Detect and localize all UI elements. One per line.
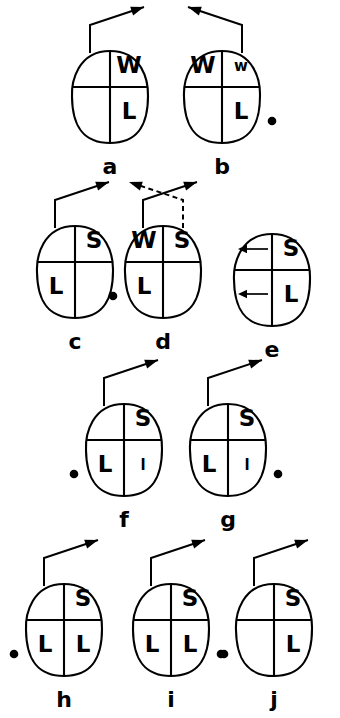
quadrant-label-upper-right: S [182,585,199,611]
quadrant-label-upper-right: S [285,585,302,611]
quadrant-label-lower-right: L [284,281,299,307]
quadrant-label-lower-left: L [202,451,217,477]
panel-caption-f: f [119,507,129,532]
panel-caption-j: j [269,687,278,712]
pointer-arrowhead [144,360,158,369]
panel-caption-e: e [265,337,280,362]
pointer-arrow [208,360,262,406]
panel-caption-i: i [167,687,175,712]
figure-canvas: WLaWwLbSLcWSLdSLeSLlfSLlgSLLhSLLiSLj a b… [0,0,340,718]
pointer-arrowhead [294,540,308,549]
quadrant-label-upper-left: W [190,52,215,78]
diagram-panel-f: SLlf [70,360,162,532]
pointer-arrowhead [84,540,98,549]
pointer-arrowhead [188,7,202,16]
diagram-panel-a: WLa [72,7,148,179]
panel-caption-g: g [220,507,236,532]
quadrant-label-lower-left: L [49,273,64,299]
quadrant-label-lower-right: L [286,631,301,657]
quadrant-label-upper-right: S [174,227,191,253]
diagram-panel-i: SLLi [133,540,225,712]
pointer-arrowhead [130,7,144,16]
diagram-panel-c: SLc [37,182,113,354]
panel-caption-b: b [214,154,230,179]
quadrant-label-lower-right: L [234,98,249,124]
diagram-panel-h: SLLh [10,540,102,712]
figure-svg: WLaWwLbSLcWSLdSLeSLlfSLlgSLLhSLLiSLj [0,0,340,718]
quadrant-label-lower-left: L [38,631,53,657]
pointer-arrowhead [129,182,143,191]
panel-caption-c: c [68,329,81,354]
pointer-arrow [188,7,242,53]
quadrant-label-lower-left: L [137,273,152,299]
pointer-arrow [90,7,144,53]
quadrant-label-lower-left: L [145,631,160,657]
reference-dot-right [274,470,283,479]
quadrant-label-upper-right: S [239,405,256,431]
diagram-panel-e: SLe [234,234,310,362]
quadrant-label-upper-right: w [234,57,248,75]
quadrant-label-upper-left: W [131,227,156,253]
quadrant-label-upper-right: S [283,235,300,261]
diagram-panel-j: SLj [220,540,312,712]
pointer-arrow [55,182,109,228]
pointer-arrow [151,540,205,586]
quadrant-label-upper-right: S [135,405,152,431]
diagram-panel-b: WwLb [184,7,276,179]
panel-caption-a: a [103,154,118,179]
quadrant-label-lower-right: l [140,456,145,474]
pointer-arrowhead [248,360,262,369]
panel-caption-d: d [155,329,171,354]
quadrant-label-upper-right: S [75,585,92,611]
panel-caption-h: h [56,687,72,712]
diagram-panel-g: SLlg [190,360,282,532]
quadrant-label-lower-left: L [98,451,113,477]
diagram-panel-d: WSLd [109,182,201,354]
pointer-arrowhead [95,182,109,191]
quadrant-label-upper-right: S [86,227,103,253]
reference-dot-left [70,470,79,479]
quadrant-label-upper-right: W [116,52,141,78]
quadrant-label-lower-right: L [122,98,137,124]
pointer-arrowhead [191,540,205,549]
panels-layer: WLaWwLbSLcWSLdSLeSLlfSLlgSLLhSLLiSLj [10,7,312,712]
quadrant-label-lower-right: L [183,631,198,657]
pointer-arrowhead [183,182,197,191]
pointer-arrow [104,360,158,406]
reference-dot-left [10,650,19,659]
quadrant-label-lower-right: L [76,631,91,657]
reference-dot-right [268,117,277,126]
pointer-arrow [254,540,308,586]
reference-dot-left [220,650,229,659]
reference-dot-left [109,292,118,301]
quadrant-label-lower-right: l [244,456,249,474]
pointer-arrow [44,540,98,586]
